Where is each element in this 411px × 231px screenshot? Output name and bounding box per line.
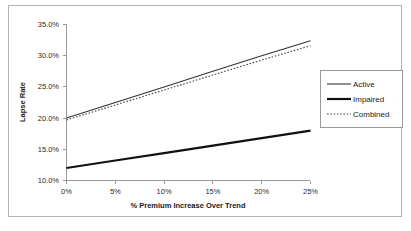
x-axis-tick-labels: 0% 5% 10% 15% 20% 25% [61, 187, 318, 196]
legend-label-active: Active [353, 80, 375, 89]
x-tick-label: 0% [61, 187, 72, 196]
x-tick-label: 5% [110, 187, 121, 196]
x-axis-title: % Premium Increase Over Trend [130, 201, 245, 210]
chart-legend: Active Impaired Combined [321, 71, 403, 128]
x-tick-label: 15% [205, 187, 220, 196]
legend-label-impaired: Impaired [353, 95, 384, 104]
x-tick-label: 10% [157, 187, 172, 196]
series-line-impaired [67, 131, 311, 168]
y-tick-label: 30.0% [38, 51, 60, 60]
chart-screenshot: 10.0% 15.0% 20.0% 25.0% 30.0% 35.0% 0% 5… [0, 0, 411, 231]
x-tick-label: 20% [254, 187, 269, 196]
x-tick-label: 25% [303, 187, 318, 196]
series-line-combined [67, 46, 311, 120]
y-tick-label: 35.0% [38, 20, 60, 29]
y-axis-tick-labels: 10.0% 15.0% 20.0% 25.0% 30.0% 35.0% [38, 20, 60, 185]
y-axis-title: Lapse Rate [18, 82, 27, 122]
series-line-active [67, 41, 311, 118]
x-axis-ticks [67, 181, 311, 185]
y-tick-label: 10.0% [38, 176, 60, 185]
y-axis-ticks [63, 25, 67, 181]
y-tick-label: 20.0% [38, 114, 60, 123]
y-tick-label: 15.0% [38, 145, 60, 154]
y-tick-label: 25.0% [38, 82, 60, 91]
legend-label-combined: Combined [353, 110, 389, 119]
line-chart: 10.0% 15.0% 20.0% 25.0% 30.0% 35.0% 0% 5… [0, 0, 411, 231]
